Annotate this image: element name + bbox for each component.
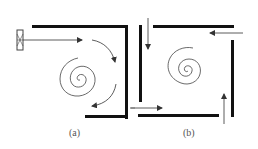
panel-b-label: (b)	[183, 128, 195, 138]
wall-right-a	[125, 25, 128, 119]
panel-a-label: (a)	[69, 128, 80, 138]
wall-bottom-b	[138, 114, 219, 117]
curved-arrow-upper-icon	[92, 40, 115, 62]
wall-top-a	[32, 25, 128, 28]
panel-b	[130, 18, 243, 124]
wall-left-b	[139, 25, 142, 102]
vortex-spiral-icon	[60, 58, 95, 96]
fan-icon	[17, 30, 23, 50]
vortex-spiral-icon	[168, 47, 200, 84]
panel-a	[17, 25, 135, 119]
wall-top-b	[153, 25, 234, 28]
airflow-diagram	[0, 0, 258, 149]
wall-bottom-a	[85, 115, 128, 118]
curved-arrow-lower-icon	[92, 84, 116, 106]
wall-right-b	[231, 40, 234, 117]
